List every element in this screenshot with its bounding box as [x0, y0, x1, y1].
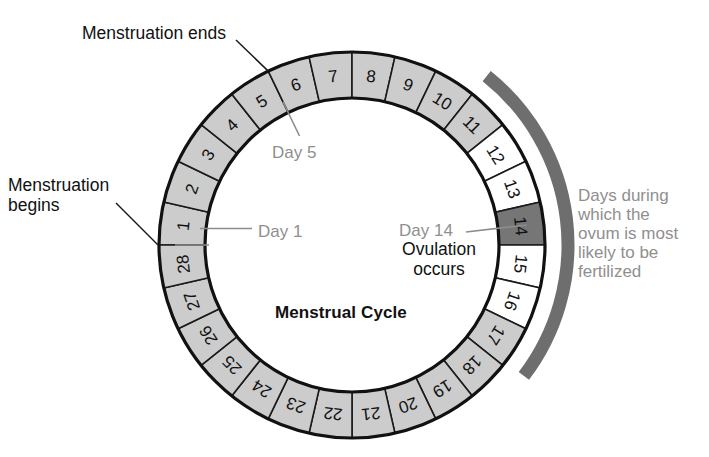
day-1-label: Day 1 [258, 222, 302, 241]
menstrual-cycle-diagram: 1234567891011121314151617181920212223242… [0, 0, 709, 457]
ovulation-occurs-label: Ovulation occurs [386, 240, 492, 279]
day-number-28: 28 [173, 254, 194, 275]
fertilization-window-label: Days during which the ovum is most likel… [578, 186, 678, 281]
cycle-center-title: Menstrual Cycle [275, 303, 407, 322]
day-number-22: 22 [323, 403, 344, 424]
leader-menstruation-begins [116, 203, 158, 245]
day-number-21: 21 [361, 403, 382, 424]
leader-menstruation-ends [236, 40, 268, 71]
menstruation-ends-label: Menstruation ends [82, 24, 226, 44]
day-14-label: Day 14 [399, 221, 453, 240]
day-number-15: 15 [510, 254, 531, 275]
menstruation-begins-label: Menstruation begins [8, 176, 109, 215]
day-5-label: Day 5 [272, 143, 316, 162]
